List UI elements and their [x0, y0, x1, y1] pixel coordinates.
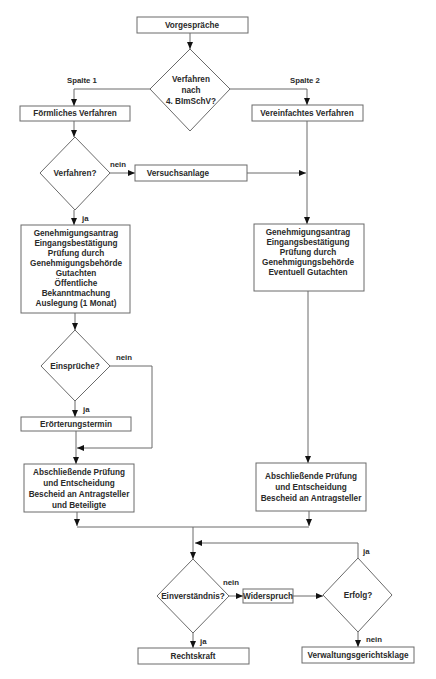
- svg-text:Widerspruch: Widerspruch: [243, 592, 293, 601]
- node-foermliches-verfahren: Förmliches Verfahren: [20, 106, 130, 121]
- svg-text:Eingangsbestätigung: Eingangsbestätigung: [34, 239, 117, 248]
- svg-text:nach: nach: [181, 86, 200, 95]
- svg-text:Öffentliche: Öffentliche: [55, 278, 98, 288]
- svg-text:Vereinfachtes Verfahren: Vereinfachtes Verfahren: [260, 109, 353, 118]
- svg-text:Verfahren: Verfahren: [172, 75, 210, 84]
- svg-text:Abschließende Prüfung: Abschließende Prüfung: [33, 468, 125, 477]
- decision-verfahren: Verfahren?: [40, 137, 110, 210]
- decision-4bimschv: Verfahren nach 4. BImSchV?: [150, 49, 230, 131]
- label-nein-einsprueche: nein: [116, 353, 132, 362]
- node-rechtskraft: Rechtskraft: [138, 648, 249, 664]
- svg-text:Eingangsbestätigung: Eingangsbestätigung: [266, 238, 349, 247]
- svg-text:Verfahren?: Verfahren?: [54, 169, 97, 178]
- node-eroerterungstermin: Erörterungstermin: [21, 417, 131, 431]
- svg-text:Gutachten: Gutachten: [56, 269, 97, 278]
- label-ja-einsprueche: ja: [82, 405, 90, 414]
- label-spalte2: Spalte 2: [290, 76, 321, 85]
- svg-text:Bescheid an Antragsteller: Bescheid an Antragsteller: [29, 490, 131, 499]
- svg-text:Erfolg?: Erfolg?: [344, 591, 373, 600]
- node-abschluss-right: Abschließende Prüfung und Entscheidung B…: [256, 463, 366, 511]
- svg-text:Eventuell Gutachten: Eventuell Gutachten: [268, 268, 347, 277]
- svg-text:Genehmigungsantrag: Genehmigungsantrag: [34, 229, 119, 238]
- label-nein-verfahren: nein: [110, 160, 126, 169]
- node-widerspruch: Widerspruch: [243, 589, 293, 603]
- label-nein-erfolg: nein: [366, 635, 382, 644]
- svg-text:Prüfung durch: Prüfung durch: [280, 248, 336, 257]
- svg-text:Bekanntmachung: Bekanntmachung: [42, 289, 111, 298]
- decision-einverstaendnis: Einverständnis?: [157, 559, 229, 633]
- svg-text:und Beteiligte: und Beteiligte: [52, 501, 107, 510]
- svg-text:Versuchsanlage: Versuchsanlage: [147, 169, 210, 178]
- svg-text:Abschließende Prüfung: Abschließende Prüfung: [265, 472, 357, 481]
- svg-text:Genehmigungsantrag: Genehmigungsantrag: [266, 228, 351, 237]
- svg-text:Genehmigungsbehörde: Genehmigungsbehörde: [262, 258, 354, 267]
- svg-text:Förmliches Verfahren: Förmliches Verfahren: [33, 109, 117, 118]
- node-abschluss-left: Abschließende Prüfung und Entscheidung B…: [24, 464, 134, 512]
- node-antrag-right: Genehmigungsantrag Eingangsbestätigung P…: [254, 224, 364, 291]
- svg-text:Prüfung durch: Prüfung durch: [48, 249, 104, 258]
- label-ja-verfahren: ja: [81, 214, 89, 223]
- svg-text:Einverständnis?: Einverständnis?: [161, 592, 225, 601]
- node-versuchsanlage: Versuchsanlage: [135, 165, 247, 181]
- svg-text:Verwaltungsgerichtsklage: Verwaltungsgerichtsklage: [307, 651, 408, 660]
- svg-text:Vorgespräche: Vorgespräche: [165, 21, 219, 30]
- node-vorgespraeche: Vorgespräche: [137, 17, 248, 33]
- svg-text:Genehmigungsbehörde: Genehmigungsbehörde: [30, 259, 122, 268]
- node-vereinfachtes-verfahren: Vereinfachtes Verfahren: [252, 105, 363, 121]
- flowchart: Vorgespräche Verfahren nach 4. BImSchV? …: [0, 0, 436, 679]
- label-ja-einverstaendnis: ja: [199, 637, 207, 646]
- svg-text:Bescheid an Antragsteller: Bescheid an Antragsteller: [261, 494, 363, 503]
- label-nein-einverstaendnis: nein: [223, 578, 239, 587]
- svg-text:Erörterungstermin: Erörterungstermin: [40, 420, 112, 429]
- node-verwaltungsgerichtsklage: Verwaltungsgerichtsklage: [302, 647, 414, 663]
- svg-text:Rechtskraft: Rechtskraft: [170, 652, 215, 661]
- label-spalte1: Spalte 1: [67, 76, 98, 85]
- svg-text:Einsprüche?: Einsprüche?: [50, 362, 100, 371]
- svg-text:4. BImSchV?: 4. BImSchV?: [166, 97, 216, 106]
- node-antrag-left: Genehmigungsantrag Eingangsbestätigung P…: [21, 225, 130, 313]
- figure-caption-clipped: [18, 672, 436, 679]
- decision-erfolg: Erfolg?: [323, 558, 392, 632]
- connectors: [74, 33, 358, 648]
- svg-text:und Entscheidung: und Entscheidung: [43, 479, 114, 488]
- decision-einsprueche: Einsprüche?: [41, 330, 110, 401]
- svg-text:Auslegung (1 Monat): Auslegung (1 Monat): [36, 299, 117, 308]
- svg-text:und Entscheidung: und Entscheidung: [275, 483, 346, 492]
- label-ja-erfolg: ja: [362, 547, 370, 556]
